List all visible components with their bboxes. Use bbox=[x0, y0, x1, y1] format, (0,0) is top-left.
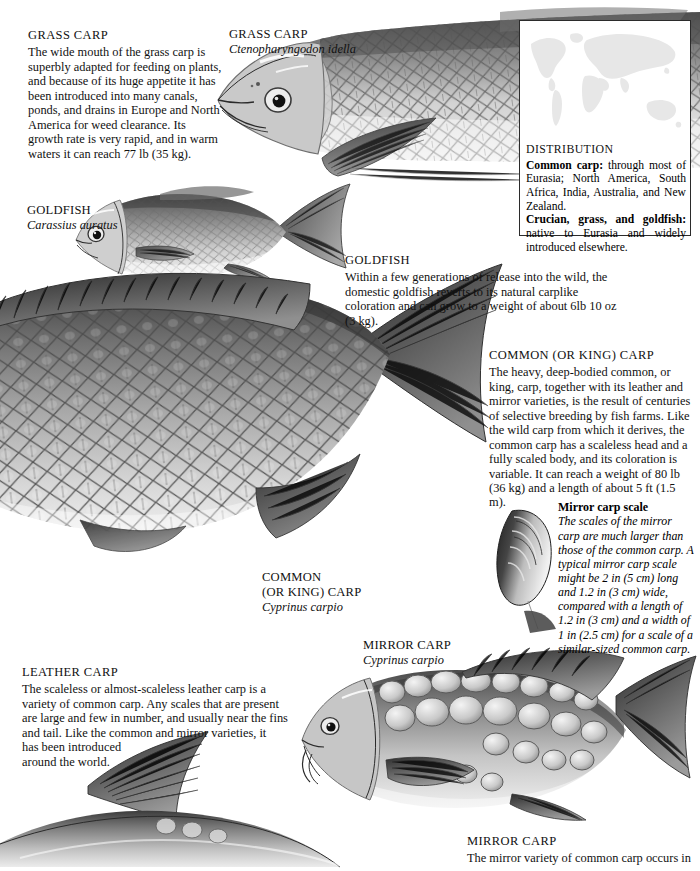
goldfish-article: GOLDFISH Within a few generations of rel… bbox=[345, 253, 625, 328]
mirror-carp-scale-illustration bbox=[494, 505, 560, 635]
mirror-carp-article-heading: MIRROR CARP bbox=[467, 834, 695, 848]
leather-carp-article-body-wide: The scaleless or almost-scaleless leathe… bbox=[22, 682, 290, 740]
common-carp-caption: COMMON (OR KING) CARP Cyprinus carpio bbox=[262, 570, 422, 614]
grass-carp-article-heading: GRASS CARP bbox=[28, 28, 224, 42]
distribution-heading: DISTRIBUTION bbox=[526, 143, 686, 157]
goldfish-common-name: GOLDFISH bbox=[27, 203, 177, 218]
distribution-map bbox=[525, 26, 685, 138]
distribution-other-species: Crucian, grass, and goldfish: native to … bbox=[526, 213, 686, 254]
scale-note-body: The scales of the mirror carp are much l… bbox=[558, 514, 694, 656]
distribution-common-carp: Common carp: through most of Eurasia; No… bbox=[526, 159, 686, 214]
goldfish-caption: GOLDFISH Carassius auratus bbox=[27, 203, 177, 232]
leather-carp-article-body-narrow: has been introduced around the world. bbox=[22, 740, 150, 769]
common-carp-article: COMMON (OR KING) CARP The heavy, deep-bo… bbox=[489, 348, 693, 510]
goldfish-scientific-name: Carassius auratus bbox=[27, 218, 177, 233]
common-carp-scientific-name: Cyprinus carpio bbox=[262, 600, 422, 615]
mirror-carp-caption: MIRROR CARP Cyprinus carpio bbox=[363, 638, 523, 667]
goldfish-article-heading: GOLDFISH bbox=[345, 253, 625, 267]
grass-carp-caption: GRASS CARP Ctenopharyngodon idella bbox=[229, 27, 379, 56]
common-carp-common-name-line1: COMMON bbox=[262, 570, 422, 585]
leather-carp-article-heading: LEATHER CARP bbox=[22, 665, 290, 679]
common-carp-article-body: The heavy, deep-bodied common, or king, … bbox=[489, 365, 693, 510]
common-carp-common-name-line2: (OR KING) CARP bbox=[262, 585, 422, 600]
leather-carp-article: LEATHER CARP The scaleless or almost-sca… bbox=[22, 665, 290, 769]
scale-note-title: Mirror carp scale bbox=[558, 500, 694, 514]
common-carp-article-heading: COMMON (OR KING) CARP bbox=[489, 348, 693, 362]
grass-carp-scientific-name: Ctenopharyngodon idella bbox=[229, 42, 379, 57]
mirror-carp-article-body: The mirror variety of common carp occurs… bbox=[467, 851, 695, 865]
mirror-carp-common-name: MIRROR CARP bbox=[363, 638, 523, 653]
goldfish-article-body: Within a few generations of release into… bbox=[345, 270, 625, 328]
distribution-other-species-text: native to Eurasia and widely introduced … bbox=[526, 227, 686, 254]
grass-carp-common-name: GRASS CARP bbox=[229, 27, 379, 42]
world-map-svg bbox=[525, 26, 685, 138]
mirror-carp-scale-note: Mirror carp scale The scales of the mirr… bbox=[558, 500, 694, 656]
distribution-common-carp-label: Common carp: bbox=[526, 159, 603, 172]
distribution-text: DISTRIBUTION Common carp: through most o… bbox=[526, 143, 686, 254]
mirror-carp-article: MIRROR CARP The mirror variety of common… bbox=[467, 834, 695, 866]
mirror-carp-scientific-name: Cyprinus carpio bbox=[363, 653, 523, 668]
distribution-other-species-label: Crucian, grass, and goldfish: bbox=[526, 213, 686, 226]
grass-carp-article: GRASS CARP The wide mouth of the grass c… bbox=[28, 28, 224, 161]
grass-carp-article-body: The wide mouth of the grass carp is supe… bbox=[28, 45, 224, 161]
distribution-box: DISTRIBUTION Common carp: through most o… bbox=[519, 20, 691, 236]
